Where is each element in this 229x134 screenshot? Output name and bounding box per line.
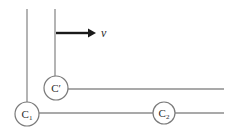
c2-subscript: 2 xyxy=(166,113,170,121)
velocity-label: v xyxy=(101,26,107,40)
c-prime-mark: ′ xyxy=(58,82,60,94)
pulley-diagram: v C′ C1 C2 xyxy=(0,0,229,134)
c1-main: C xyxy=(22,108,29,120)
c2-main: C xyxy=(159,107,166,119)
c1-subscript: 1 xyxy=(29,114,33,122)
c-prime-main: C xyxy=(51,82,58,94)
circle-c-prime-label: C′ xyxy=(51,82,61,94)
